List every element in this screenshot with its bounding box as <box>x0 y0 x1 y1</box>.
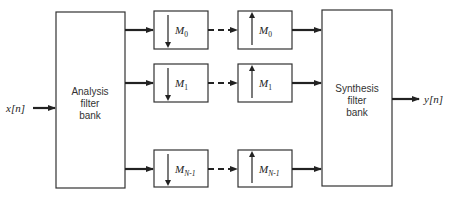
channel-n-minus-1: MN-1 MN-1 <box>125 150 321 187</box>
channel-0: M0 M0 <box>125 11 321 49</box>
output-label: y[n] <box>423 93 443 105</box>
channel-1: M1 M1 <box>125 64 321 102</box>
filter-bank-diagram: x[n] Analysis filter bank M0 M0 M1 M1 MN… <box>0 0 451 199</box>
synthesis-label-1: Synthesis <box>335 83 378 94</box>
synthesis-label-3: bank <box>346 107 369 118</box>
synthesis-label-2: filter <box>348 95 368 106</box>
analysis-label-3: bank <box>79 110 102 121</box>
analysis-label-1: Analysis <box>71 86 108 97</box>
analysis-label-2: filter <box>81 98 101 109</box>
input-label: x[n] <box>5 102 25 114</box>
